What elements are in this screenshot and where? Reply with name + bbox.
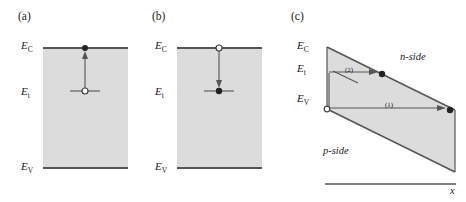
panel-c-hole-marker-open-ev bbox=[324, 106, 330, 112]
panel-c-electron-marker-transition1 bbox=[447, 107, 453, 113]
panel-c-region-label-p-side: p-side bbox=[323, 145, 349, 156]
panel-c-transition-label-2: (2) bbox=[345, 66, 353, 74]
band-diagram-figure: (a) EC Et EV (b) EC Et EV (c) EC Et EV bbox=[0, 0, 466, 202]
panel-c-transition-label-1: (1) bbox=[385, 101, 393, 109]
panel-c-axis-label-x: x bbox=[450, 185, 455, 196]
panel-c-graphic bbox=[0, 0, 466, 202]
panel-c-electron-marker-transition2 bbox=[379, 71, 385, 77]
panel-c-region-label-n-side: n-side bbox=[400, 51, 426, 62]
